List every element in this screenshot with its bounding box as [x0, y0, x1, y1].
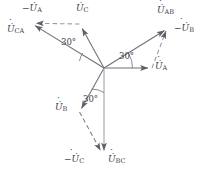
label-ub: U̇B	[55, 103, 67, 113]
label-minus-ua: −U̇A	[22, 4, 42, 14]
label-minus-ub-text: −U̇	[174, 24, 189, 33]
label-ubc-sub: BC	[116, 157, 126, 165]
label-ubc: U̇BC	[108, 155, 125, 165]
label-minus-ua-sub: A	[37, 6, 42, 14]
angle-arc-ubc-ub	[92, 89, 105, 93]
label-uca-text: U̇	[7, 25, 15, 34]
angle-label-ua-uab: 30°	[119, 52, 134, 61]
label-minus-ub-sub: B	[189, 26, 194, 34]
label-ub-text: U̇	[55, 103, 63, 112]
label-uab-text: U̇	[157, 6, 165, 15]
label-minus-uc: −U̇C	[64, 155, 84, 165]
label-minus-uc-sub: C	[79, 157, 84, 165]
label-uab: U̇AB	[157, 6, 174, 16]
label-ua: U̇A	[155, 62, 167, 72]
label-uca: U̇CA	[7, 25, 24, 35]
vector-uc-line	[82, 29, 104, 69]
angle-label-ubc-ub: 30°	[83, 95, 98, 104]
label-ua-text: U̇	[155, 62, 163, 71]
label-ubc-text: U̇	[108, 155, 116, 164]
label-uab-sub: AB	[165, 8, 174, 16]
label-uc-text: U̇	[76, 4, 84, 13]
label-minus-ub: −U̇B	[174, 24, 194, 34]
label-minus-ua-text: −U̇	[22, 4, 37, 13]
phasor-diagram-figure: −U̇A U̇C U̇CA U̇AB −U̇B U̇A U̇B −U̇C U̇B…	[0, 0, 209, 179]
label-ua-sub: A	[163, 64, 168, 72]
label-uc: U̇C	[76, 4, 89, 14]
label-uca-sub: CA	[15, 27, 25, 35]
vector-minus-uc-line	[80, 112, 101, 151]
angle-label-uca-uc: 30°	[61, 38, 76, 47]
vector-minus-ua-line	[36, 23, 80, 24]
label-uc-sub: C	[84, 6, 89, 14]
label-ub-sub: B	[63, 105, 68, 113]
label-minus-uc-text: −U̇	[64, 155, 79, 164]
